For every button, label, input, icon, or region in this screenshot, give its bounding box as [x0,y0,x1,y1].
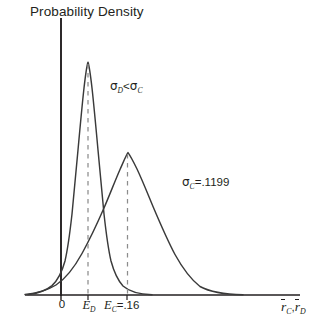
ec-subscript: C [112,305,117,314]
sigma-symbol-d: σ [110,79,118,93]
r-bar-c-subscript: C [286,307,291,316]
x-tick-label-expected-return-d: ED [78,299,100,312]
ed-symbol: E [82,298,90,312]
sigma-c-numeric-value: .1199 [201,176,229,188]
density-curve-security-d [28,62,152,295]
sigma-subscript-d: D [118,86,123,95]
chart-plot-area [0,0,336,331]
chart-title: Probability Density [30,5,144,19]
x-tick-label-zero: 0 [55,299,69,311]
ec-symbol: E [104,298,112,312]
probability-density-chart: Probability Density σD<σC σC=.1199 0 ED … [0,0,336,331]
sigma-symbol-c-value: σ [182,175,190,189]
sigma-subscript-c-value: C [190,182,195,191]
r-bar-d-subscript: D [300,307,306,316]
x-axis-label: rC,rD [281,300,306,314]
x-tick-label-expected-return-c: EC=.16 [104,299,166,312]
ed-subscript: D [90,305,95,314]
ec-numeric-value: .16 [123,299,139,311]
annotation-sigma-c-value: σC=.1199 [182,176,229,189]
less-than-operator: < [123,80,130,92]
density-curve-security-c [25,153,243,295]
sigma-subscript-c: C [137,86,142,95]
annotation-sigma-comparison: σD<σC [110,80,142,93]
